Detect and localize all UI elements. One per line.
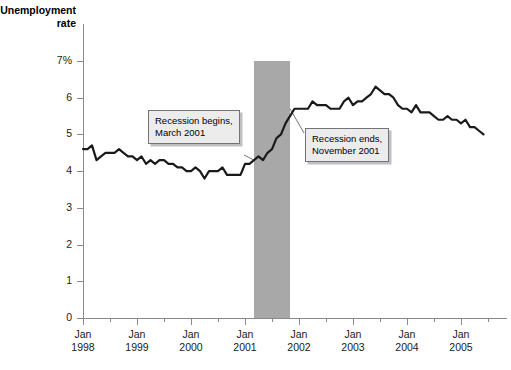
x-tick-label: Jan 2005 — [431, 328, 491, 353]
y-tick-label: 5 — [28, 127, 72, 139]
x-tick-label: Jan 2003 — [323, 328, 383, 353]
x-tick-mark-minor — [272, 319, 273, 322]
y-tick-mark — [77, 61, 83, 62]
y-tick-mark — [77, 208, 83, 209]
y-tick-label: 1 — [28, 274, 72, 286]
x-tick-mark-minor — [218, 319, 219, 322]
x-tick-label: Jan 1999 — [107, 328, 167, 353]
x-tick-mark-major — [191, 319, 192, 325]
y-axis-line — [83, 24, 84, 319]
x-tick-mark-major — [83, 319, 84, 325]
y-tick-mark — [77, 171, 83, 172]
x-tick-mark-major — [137, 319, 138, 325]
y-tick-label: 7% — [28, 54, 72, 66]
annotation-recession-begins: Recession begins, March 2001 — [148, 110, 240, 144]
recession-shaded-band — [254, 61, 290, 318]
x-tick-mark-minor — [488, 319, 489, 322]
x-tick-mark-minor — [326, 319, 327, 322]
x-tick-mark-major — [299, 319, 300, 325]
x-tick-mark-minor — [110, 319, 111, 322]
x-tick-mark-major — [353, 319, 354, 325]
x-tick-mark-minor — [434, 319, 435, 322]
y-tick-mark — [77, 245, 83, 246]
leader-line-recession-ends — [290, 109, 304, 133]
x-tick-mark-major — [245, 319, 246, 325]
chart-title: Unemployment rate — [0, 4, 76, 29]
x-tick-mark-minor — [164, 319, 165, 322]
x-tick-mark-major — [461, 319, 462, 325]
x-tick-label: Jan 1998 — [53, 328, 113, 353]
y-tick-label: 2 — [28, 238, 72, 250]
y-tick-label: 0 — [28, 311, 72, 323]
x-tick-label: Jan 2001 — [215, 328, 275, 353]
x-tick-label: Jan 2000 — [161, 328, 221, 353]
annotation-recession-ends: Recession ends, November 2001 — [305, 128, 389, 162]
x-tick-mark-minor — [380, 319, 381, 322]
y-tick-mark — [77, 98, 83, 99]
x-tick-label: Jan 2002 — [269, 328, 329, 353]
leader-line-recession-begins — [244, 155, 254, 160]
y-tick-label: 6 — [28, 91, 72, 103]
x-axis-line — [83, 318, 507, 319]
x-tick-label: Jan 2004 — [377, 328, 437, 353]
y-tick-mark — [77, 134, 83, 135]
y-tick-label: 3 — [28, 201, 72, 213]
y-tick-mark — [77, 281, 83, 282]
y-tick-label: 4 — [28, 164, 72, 176]
unemployment-rate-chart: Unemployment rate 7%6543210 Jan 1998Jan … — [0, 0, 511, 370]
x-tick-mark-major — [407, 319, 408, 325]
